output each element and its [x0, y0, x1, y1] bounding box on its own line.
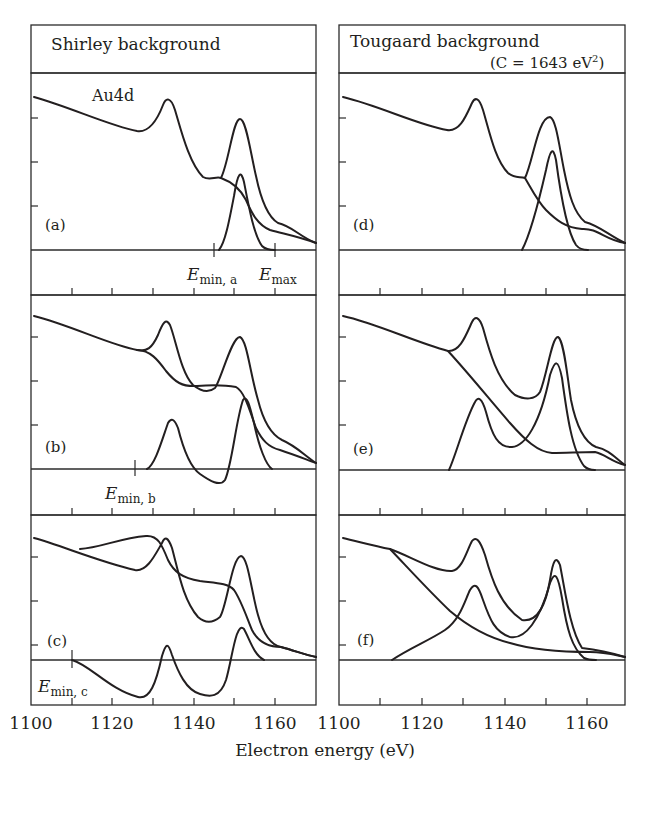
right-column-tougaard: Tougaard background (C = 1643 eV2) (d) (… — [339, 25, 625, 705]
panel-a-subtracted-spectrum — [219, 175, 275, 250]
panel-c-label: (c) — [47, 632, 67, 650]
panel-b-label: (b) — [45, 438, 66, 456]
x-axis-title: Electron energy (eV) — [235, 740, 415, 760]
tick-label-left-1120: 1120 — [90, 713, 133, 733]
panel-d-measured-spectrum — [343, 97, 625, 243]
panel-f-frame — [339, 515, 625, 705]
tick-label-right-1140: 1140 — [483, 713, 526, 733]
panel-e-measured-spectrum — [343, 316, 625, 465]
panel-e-label: (e) — [353, 440, 374, 458]
tick-label-right-1100: 1100 — [317, 713, 360, 733]
xps-background-figure: Shirley background Au4d (a) Emin, a Emax… — [0, 0, 650, 817]
x-axis-tick-labels: 1100 1120 1140 1160 1100 1120 1140 1160 — [9, 713, 608, 733]
panel-a-label: (a) — [45, 216, 66, 234]
panel-f-label: (f) — [357, 631, 374, 649]
au4d-label: Au4d — [91, 86, 134, 105]
emin-b-label: Emin, b — [104, 483, 156, 506]
emin-a-label: Emin, a — [186, 264, 237, 287]
panel-b-subtracted-spectrum — [147, 399, 272, 484]
panel-d-label: (d) — [353, 216, 374, 234]
panel-c-shirley-background — [80, 536, 316, 657]
tick-label-left-1160: 1160 — [253, 713, 296, 733]
tick-label-right-1120: 1120 — [400, 713, 443, 733]
panel-c-measured-spectrum — [34, 538, 316, 657]
tick-label-left-1100: 1100 — [9, 713, 52, 733]
panel-f-measured-spectrum — [343, 538, 625, 657]
panel-c-subtracted-spectrum — [72, 628, 264, 698]
left-column-shirley: Shirley background Au4d (a) Emin, a Emax… — [31, 25, 316, 705]
panel-a-measured-spectrum — [34, 97, 316, 243]
panel-d-subtracted-spectrum — [522, 151, 588, 250]
x-axis-ticks — [72, 698, 587, 705]
emax-label: Emax — [258, 264, 297, 287]
left-column-title: Shirley background — [51, 34, 221, 54]
right-column-subtitle: (C = 1643 eV2) — [490, 53, 604, 72]
panel-c-frame — [31, 515, 316, 705]
panel-f-subtracted-spectrum — [392, 576, 596, 660]
panel-b-measured-spectrum — [34, 316, 316, 463]
emin-c-label: Emin, c — [37, 676, 88, 699]
tick-label-left-1140: 1140 — [172, 713, 215, 733]
tick-label-right-1160: 1160 — [565, 713, 608, 733]
panel-e-subtracted-spectrum — [449, 363, 595, 470]
right-column-title: Tougaard background — [350, 31, 540, 51]
panel-b-shirley-background — [137, 350, 316, 463]
